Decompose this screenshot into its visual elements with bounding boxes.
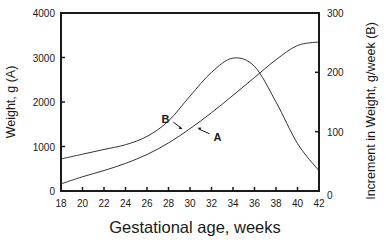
- x-tick-label: 22: [98, 198, 110, 209]
- x-tick-label: 40: [292, 198, 304, 209]
- series-a-weight-curve: [61, 42, 319, 184]
- y-tick-label: 0: [49, 186, 55, 197]
- y-tick-label: 4000: [33, 8, 56, 19]
- y2-tick-label: 100: [327, 127, 344, 138]
- x-tick-label: 38: [270, 198, 282, 209]
- y-tick-label: 1000: [33, 142, 56, 153]
- series-b-increment-curve: [61, 58, 319, 171]
- x-tick-label: 18: [55, 198, 67, 209]
- growth-chart: 18202224262830323436384042 0100020003000…: [0, 0, 386, 245]
- y2-tick-label: 200: [327, 67, 344, 78]
- y2-axis-title: Increment in Weight, g/week (B): [364, 22, 378, 200]
- annotation-a-label: A: [214, 131, 222, 143]
- x-tick-label: 34: [227, 198, 239, 209]
- x-tick-label: 36: [249, 198, 261, 209]
- y2-tick-label: 300: [327, 8, 344, 19]
- x-tick-label: 30: [184, 198, 196, 209]
- x-tick-label: 24: [120, 198, 132, 209]
- x-tick-label: 26: [141, 198, 153, 209]
- x-tick-label: 32: [206, 198, 218, 209]
- y2-tick-label: 0: [327, 190, 333, 201]
- x-tick-label: 42: [313, 198, 325, 209]
- y-axis-title: Weight, g (A): [4, 66, 18, 139]
- annotation-b-label: B: [161, 113, 169, 125]
- y-tick-label: 2000: [33, 97, 56, 108]
- x-tick-label: 20: [77, 198, 89, 209]
- x-axis-title: Gestational age, weeks: [109, 218, 281, 236]
- x-tick-label: 28: [163, 198, 175, 209]
- plot-frame: [61, 13, 319, 191]
- y-tick-label: 3000: [33, 53, 56, 64]
